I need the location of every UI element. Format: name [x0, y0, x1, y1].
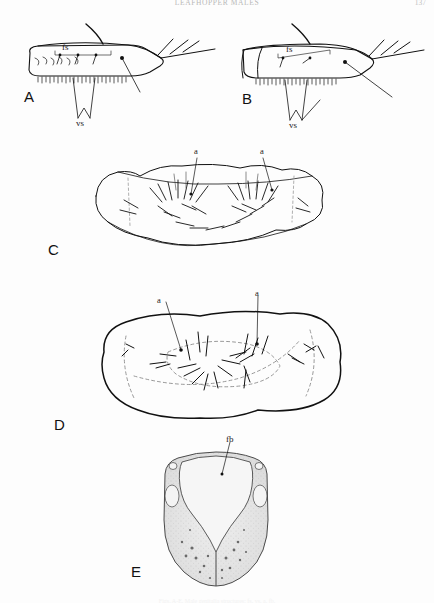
panel-letter-e: E — [131, 563, 141, 580]
plate-artwork — [0, 0, 434, 603]
panel-e-artwork — [164, 442, 268, 586]
label-a-d-left: a — [157, 295, 161, 305]
label-a-c-left: a — [194, 146, 198, 156]
label-fb-e: fb — [226, 434, 234, 444]
label-fs-a: fs — [62, 42, 69, 52]
panel-c-artwork — [96, 158, 323, 246]
figure-plate: LEAFHOPPER MALES 137 — [0, 0, 434, 603]
figure-caption: Figs. A-E. Male genitalia structures; fs… — [0, 598, 434, 603]
panel-a-artwork — [29, 24, 215, 118]
panel-b-artwork — [242, 24, 424, 120]
label-fs-b: fs — [286, 44, 293, 54]
label-a-d-right: a — [255, 288, 259, 298]
panel-letter-c: C — [48, 241, 59, 258]
label-vs-a: vs — [76, 118, 84, 128]
panel-letter-a: A — [24, 88, 34, 105]
panel-letter-b: B — [242, 90, 252, 107]
panel-d-artwork — [102, 296, 341, 418]
panel-letter-d: D — [54, 416, 65, 433]
label-a-c-right: a — [260, 146, 264, 156]
label-vs-b: vs — [289, 120, 297, 130]
